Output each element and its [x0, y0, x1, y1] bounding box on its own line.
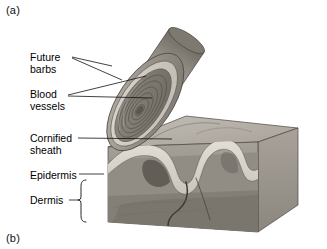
- dermis-bracket: [78, 180, 86, 222]
- figure-panel-a: (a) (b): [0, 0, 327, 249]
- label-future-barbs-line2: barbs: [30, 64, 60, 76]
- label-cornified-sheath: Cornified sheath: [30, 133, 72, 156]
- label-epidermis: Epidermis: [30, 170, 77, 182]
- label-cornified-sheath-line2: sheath: [30, 145, 72, 157]
- label-blood-vessels: Blood vessels: [30, 89, 65, 112]
- label-cornified-sheath-line1: Cornified: [30, 133, 72, 145]
- label-dermis: Dermis: [30, 195, 63, 207]
- label-blood-vessels-line2: vessels: [30, 101, 65, 113]
- leader-future-barbs-1: [72, 57, 112, 66]
- feather-follicle-illustration: [0, 0, 327, 249]
- block-right-face: [258, 128, 298, 232]
- label-future-barbs: Future barbs: [30, 52, 60, 75]
- leader-future-barbs-2: [72, 58, 122, 80]
- label-future-barbs-line1: Future: [30, 52, 60, 64]
- label-blood-vessels-line1: Blood: [30, 89, 65, 101]
